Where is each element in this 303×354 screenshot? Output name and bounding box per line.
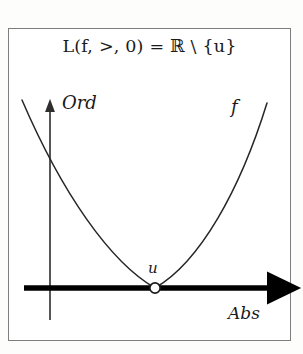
abscissa-axis-label: Abs: [228, 303, 260, 323]
curve-f: [22, 100, 267, 288]
point-label-u: u: [148, 259, 158, 277]
curve-label-f: f: [231, 96, 238, 117]
point-marker-u: [150, 283, 160, 293]
plot-canvas: [0, 0, 303, 354]
ordinate-axis-label: Ord: [62, 92, 97, 113]
figure-root: L(f, >, 0) = ℝ \ {u} Ord f Abs: [0, 0, 303, 354]
